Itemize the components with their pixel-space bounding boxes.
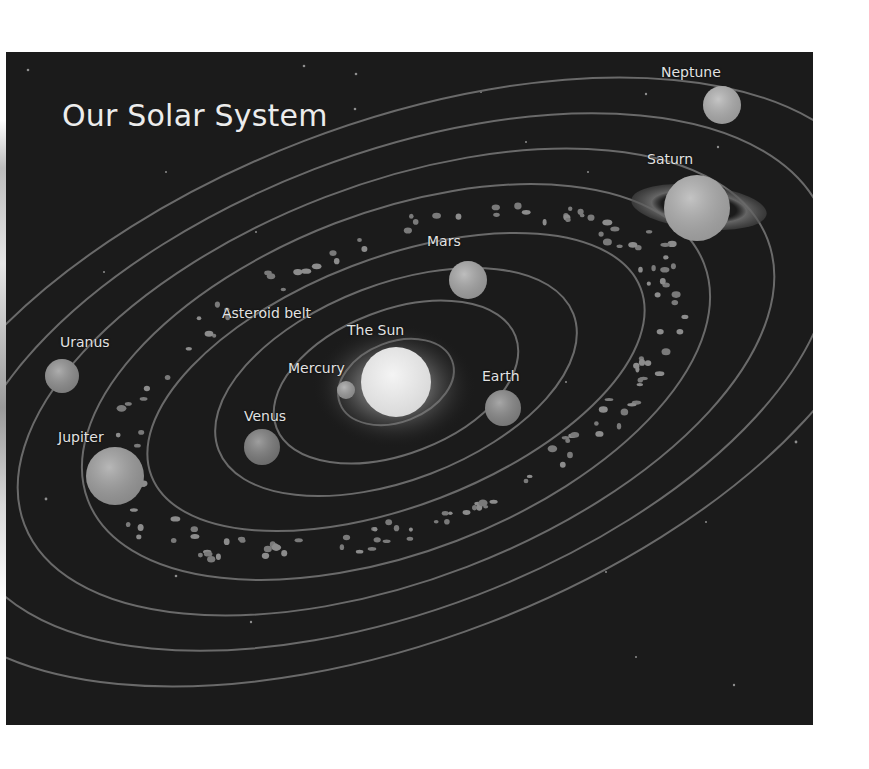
planet-shading (449, 261, 487, 299)
asteroid (126, 522, 131, 527)
asteroid (191, 526, 198, 532)
asteroid (140, 397, 148, 401)
asteroid (663, 255, 668, 259)
asteroid (478, 500, 487, 507)
asteroid (138, 430, 144, 435)
asteroid (293, 269, 302, 275)
asteroid (639, 377, 648, 380)
asteroid (493, 213, 500, 217)
asteroid (357, 238, 362, 242)
asteroid (655, 371, 665, 376)
asteroid (394, 525, 399, 531)
asteroid (490, 500, 498, 504)
asteroid (301, 269, 311, 274)
diagram-title: Our Solar System (62, 98, 328, 133)
asteroid (144, 386, 150, 391)
asteroid (472, 505, 477, 510)
asteroid (662, 348, 671, 355)
asteroid (207, 556, 215, 563)
asteroid (645, 360, 652, 366)
asteroid (448, 511, 452, 515)
asteroid (657, 329, 664, 334)
asteroid (677, 329, 684, 334)
asteroid (646, 230, 652, 234)
asteroid (647, 282, 651, 286)
label-jupiter: Jupiter (58, 429, 104, 445)
asteroid (224, 538, 230, 545)
asteroid (281, 550, 287, 557)
asteroid (565, 439, 570, 443)
asteroid (617, 423, 621, 430)
label-earth: Earth (482, 368, 520, 384)
label-asteroid-belt: Asteroid belt (222, 305, 311, 321)
asteroid (444, 519, 450, 525)
planet-shading (86, 447, 144, 505)
asteroid (368, 547, 377, 551)
asteroid (204, 551, 213, 556)
asteroid (588, 215, 595, 221)
asteroid (329, 250, 336, 256)
planet-shading (337, 381, 355, 399)
asteroid (409, 214, 414, 219)
label-saturn: Saturn (647, 151, 693, 167)
asteroid (383, 539, 391, 543)
asteroid (635, 366, 639, 372)
asteroid (216, 554, 221, 560)
asteroid (171, 538, 177, 543)
asteroid (130, 508, 138, 512)
asteroid (524, 479, 529, 483)
asteroid (432, 213, 441, 219)
asteroid (264, 546, 272, 553)
asteroid (271, 544, 281, 550)
asteroid (190, 534, 199, 539)
asteroid (660, 267, 669, 273)
label-mars: Mars (427, 233, 461, 249)
asteroid (621, 409, 629, 416)
asteroid (492, 205, 500, 211)
planet-shading (244, 429, 280, 465)
asteroid (610, 226, 619, 231)
asteroid (407, 537, 414, 541)
asteroid (373, 527, 378, 531)
asteroid (565, 218, 570, 222)
asteroid (442, 511, 449, 516)
asteroid (637, 383, 643, 386)
asteroid (570, 432, 579, 438)
asteroid (356, 550, 364, 554)
asteroid (599, 406, 608, 412)
label-venus: Venus (244, 408, 286, 424)
asteroid (638, 267, 643, 273)
asteroid (138, 524, 144, 531)
asteroid (413, 219, 419, 225)
planet-shading (703, 86, 741, 124)
asteroid (522, 210, 531, 215)
asteroid (617, 245, 623, 249)
asteroid (385, 519, 392, 525)
asteroid (605, 398, 614, 401)
asteroid (599, 232, 604, 237)
asteroid (639, 359, 645, 366)
asteroid (340, 544, 344, 550)
asteroid (560, 462, 566, 468)
asteroid (409, 528, 413, 532)
asteroid (334, 258, 340, 264)
asteroid (434, 520, 439, 523)
asteroid (171, 516, 181, 521)
asteroid (660, 243, 670, 247)
asteroid (116, 433, 121, 438)
asteroid (672, 291, 681, 298)
label-neptune: Neptune (661, 64, 721, 80)
asteroid (514, 203, 521, 210)
asteroid (239, 539, 245, 543)
planet-shading (485, 390, 521, 426)
asteroid (568, 207, 572, 212)
asteroid (404, 227, 412, 233)
asteroid (198, 553, 203, 558)
asteroid (117, 405, 127, 412)
asteroid (343, 535, 350, 540)
asteroid (655, 292, 661, 297)
asteroid (165, 375, 171, 380)
asteroid (205, 331, 214, 337)
asteroid (567, 452, 573, 458)
asteroid (627, 403, 636, 406)
